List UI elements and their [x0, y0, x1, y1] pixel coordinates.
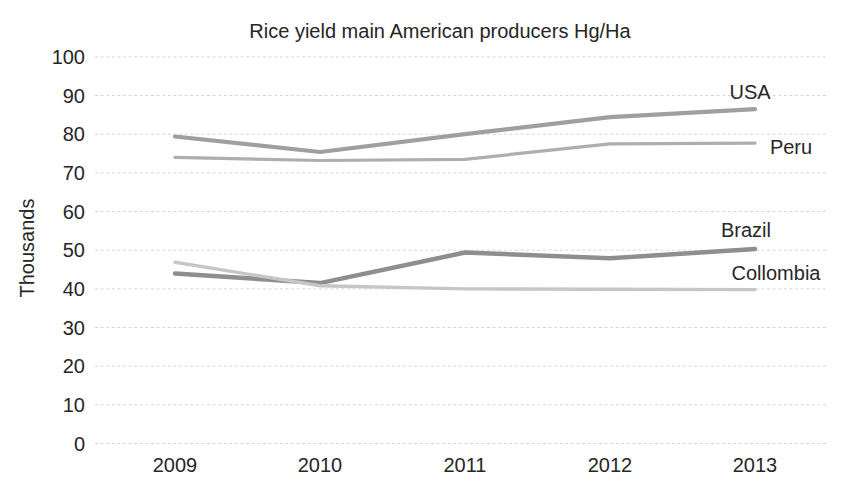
chart: Rice yield main American producers Hg/Ha…: [0, 0, 847, 496]
chart-title: Rice yield main American producers Hg/Ha: [140, 20, 740, 43]
y-tick-label: 50: [63, 239, 85, 261]
x-tick-label: 2009: [153, 454, 198, 476]
y-tick-label: 70: [63, 162, 85, 184]
plot-area: 1009080706050403020100200920102011201220…: [0, 0, 847, 496]
y-tick-label: 90: [63, 85, 85, 107]
y-axis-label: Thousands: [16, 199, 39, 298]
y-tick-label: 10: [63, 394, 85, 416]
series-label-usa: USA: [729, 81, 771, 103]
series-label-brazil: Brazil: [721, 219, 771, 241]
y-tick-label: 60: [63, 201, 85, 223]
x-tick-label: 2013: [733, 454, 778, 476]
x-tick-label: 2010: [298, 454, 343, 476]
y-tick-label: 20: [63, 355, 85, 377]
y-tick-label: 0: [74, 433, 85, 455]
x-tick-label: 2011: [443, 454, 486, 476]
y-tick-label: 100: [52, 46, 85, 68]
series-line-collombia: [175, 262, 755, 289]
series-line-usa: [175, 109, 755, 152]
y-tick-label: 80: [63, 123, 85, 145]
y-tick-label: 40: [63, 278, 85, 300]
x-tick-label: 2012: [588, 454, 633, 476]
series-label-peru: Peru: [770, 136, 812, 158]
series-label-collombia: Collombia: [732, 262, 822, 284]
y-tick-label: 30: [63, 317, 85, 339]
